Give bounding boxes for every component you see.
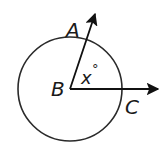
label-b: B xyxy=(51,77,65,101)
degree-symbol: ° xyxy=(92,61,99,76)
angle-label: x xyxy=(80,67,92,88)
label-a: A xyxy=(64,18,80,42)
angle-diagram: A B C x ° xyxy=(0,0,168,154)
label-c: C xyxy=(125,95,139,119)
